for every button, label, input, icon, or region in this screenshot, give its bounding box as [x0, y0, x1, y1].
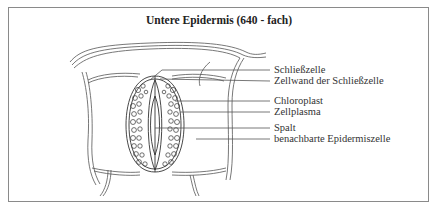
- label-zellwand: Zellwand der Schließzelle: [274, 75, 384, 86]
- label-chloroplast: Chloroplast: [274, 95, 323, 106]
- label-spalt: Spalt: [274, 122, 296, 133]
- label-schliesszelle: Schließzelle: [274, 64, 325, 75]
- stoma-drawing: [0, 0, 438, 212]
- label-epidermiszelle: benachbarte Epidermiszelle: [274, 133, 390, 144]
- label-zellplasma: Zellplasma: [274, 106, 321, 117]
